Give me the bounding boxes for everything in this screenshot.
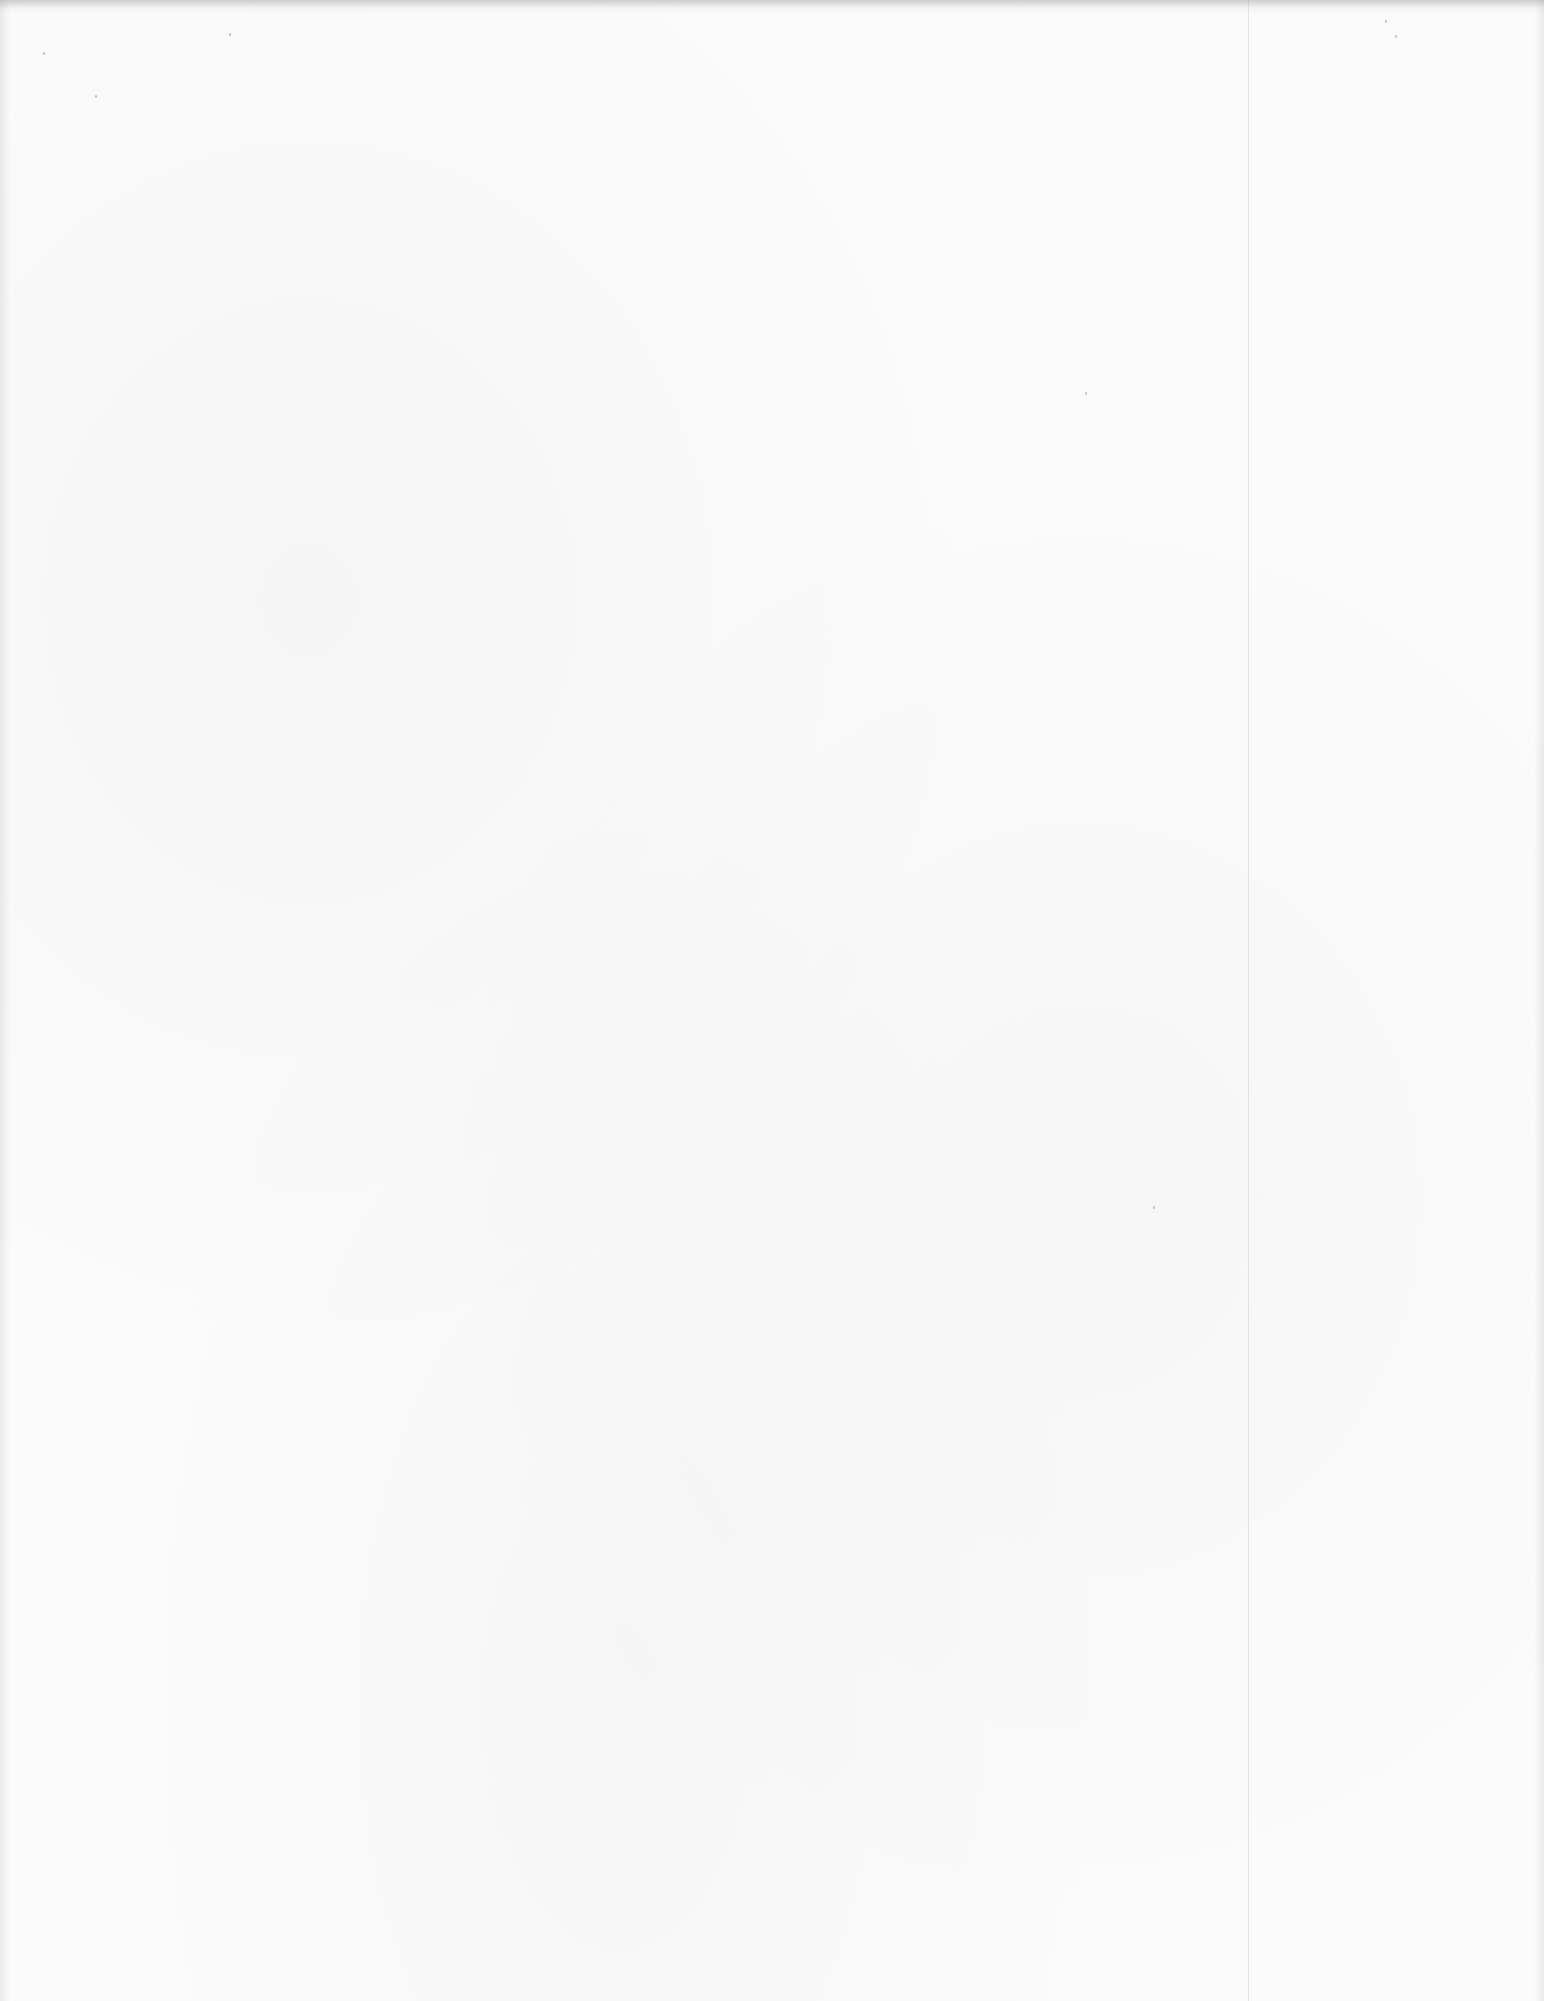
right-edge-shadow [1534, 0, 1544, 2001]
top-edge-shadow [0, 0, 1544, 14]
scan-speck [95, 95, 97, 98]
scan-speck [1385, 20, 1387, 23]
scan-speck [229, 33, 231, 36]
scan-speck [1085, 392, 1087, 395]
scan-speck [43, 52, 45, 55]
scan-speck [1395, 35, 1397, 38]
fold-line [1248, 0, 1249, 2001]
scan-speck [1153, 1206, 1155, 1209]
left-edge-shadow [0, 0, 10, 2001]
scanned-page [0, 0, 1544, 2001]
